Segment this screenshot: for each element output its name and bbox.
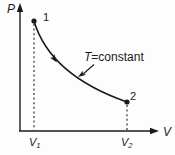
pv-diagram: P V 1 2 V1 V2 T=constant — [0, 0, 175, 155]
v1-tick-label: V1 — [29, 136, 41, 150]
isotherm-annotation-label: T=constant — [84, 50, 144, 64]
pressure-axis-arrowhead — [17, 3, 23, 12]
volume-axis-arrowhead — [150, 128, 159, 134]
v2-tick-label: V2 — [121, 136, 133, 150]
state-point-1-label: 1 — [43, 11, 49, 23]
volume-axis-label: V — [163, 125, 172, 139]
state-point-2 — [124, 99, 129, 104]
annotation-rest: =constant — [91, 50, 144, 64]
state-point-1 — [31, 18, 36, 23]
state-point-2-label: 2 — [130, 90, 136, 102]
pressure-axis-label: P — [7, 2, 15, 16]
v1-tick-sub: 1 — [36, 141, 40, 150]
annotation-arrow-line — [82, 65, 94, 76]
diagram-canvas: P V 1 2 V1 V2 T=constant — [0, 0, 175, 155]
v2-tick-sub: 2 — [127, 141, 133, 150]
